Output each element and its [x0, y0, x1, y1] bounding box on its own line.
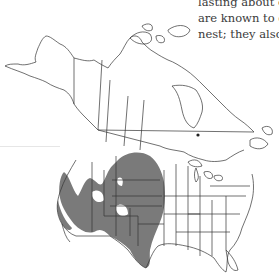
range-map	[0, 0, 279, 274]
lake-marker	[196, 133, 199, 136]
range-shading	[57, 153, 165, 268]
